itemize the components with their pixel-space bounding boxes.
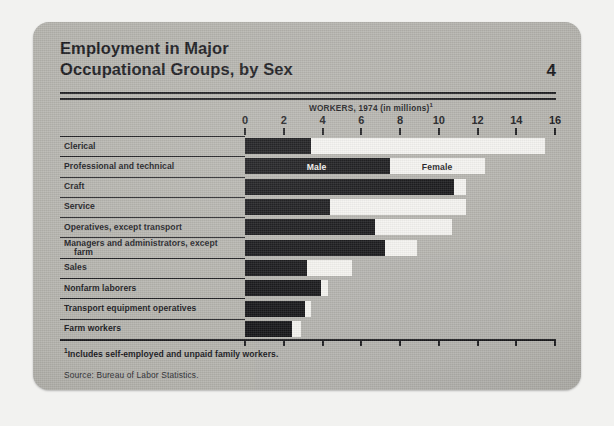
x-tick-label-14: 14	[510, 114, 522, 126]
category-label-line: Nonfarm laborers	[64, 283, 136, 293]
bar-segment-female	[311, 138, 545, 154]
x-axis-tick-marks-bottom	[33, 339, 581, 347]
bar-row: Operatives, except transport	[33, 217, 581, 237]
x-tick-mark-12	[477, 339, 479, 346]
x-tick-label-4: 4	[319, 114, 325, 126]
axis-title: WORKERS, 1974 (in millions)1	[246, 102, 496, 113]
bar-row: Managers and administrators, exceptfarm	[33, 237, 581, 257]
bar-rows: ClericalProfessional and technicalMaleFe…	[33, 136, 581, 339]
x-tick-mark-2	[283, 128, 285, 135]
legend-label-female: Female	[422, 162, 453, 172]
x-tick-mark-16	[554, 339, 556, 346]
bar-segment-male	[245, 240, 385, 256]
bar-row: Professional and technicalMaleFemale	[33, 156, 581, 176]
bar-segment-female	[321, 280, 329, 296]
bar-segment-male	[245, 321, 292, 337]
page-canvas: Employment in Major Occupational Groups,…	[0, 0, 614, 426]
bar-row: Clerical	[33, 136, 581, 156]
source-note: Source: Bureau of Labor Statistics.	[64, 370, 199, 380]
bar-segment-male	[245, 280, 321, 296]
category-label: Farm workers	[64, 323, 121, 333]
row-divider	[60, 217, 245, 218]
footnote: 1Includes self-employed and unpaid famil…	[64, 347, 278, 359]
card-header: Employment in Major Occupational Groups,…	[60, 38, 556, 80]
x-tick-label-2: 2	[281, 114, 287, 126]
category-label-line: Craft	[64, 181, 84, 191]
x-tick-label-6: 6	[358, 114, 364, 126]
category-label: Operatives, except transport	[64, 222, 182, 232]
chart-card: Employment in Major Occupational Groups,…	[33, 22, 581, 390]
row-divider	[60, 278, 245, 279]
x-tick-mark-4	[322, 339, 324, 346]
x-tick-mark-14	[515, 128, 517, 135]
page-title: Employment in Major Occupational Groups,…	[60, 38, 460, 80]
x-tick-mark-0	[244, 128, 246, 135]
x-tick-label-16: 16	[549, 114, 561, 126]
x-axis-tick-labels: 0246810121416	[33, 114, 581, 128]
bar-segment-male	[245, 179, 454, 195]
category-label-line: Farm workers	[64, 323, 121, 333]
x-tick-mark-6	[360, 339, 362, 346]
x-tick-mark-14	[515, 339, 517, 346]
x-tick-label-8: 8	[397, 114, 403, 126]
bar-segment-female	[307, 260, 352, 276]
bar-segment-male	[245, 301, 305, 317]
bar-segment-male	[245, 138, 311, 154]
x-tick-mark-8	[399, 128, 401, 135]
category-label: Professional and technical	[64, 161, 174, 171]
row-divider	[60, 156, 245, 157]
category-label: Managers and administrators, exceptfarm	[64, 239, 244, 257]
category-label: Sales	[64, 262, 87, 272]
category-label-line: Sales	[64, 262, 87, 272]
bar-segment-female	[385, 240, 418, 256]
bar-row: Service	[33, 197, 581, 217]
category-label-line: Professional and technical	[64, 161, 174, 171]
category-label: Craft	[64, 181, 84, 191]
x-tick-mark-0	[244, 339, 246, 346]
x-tick-mark-4	[322, 128, 324, 135]
bar-row: Farm workers	[33, 319, 581, 339]
category-label-line: Service	[64, 201, 95, 211]
bar-segment-female	[375, 219, 453, 235]
bar-segment-female	[292, 321, 302, 337]
category-label: Service	[64, 201, 95, 211]
row-divider	[60, 177, 245, 178]
category-label-line: farm	[64, 248, 244, 257]
bar-row: Nonfarm laborers	[33, 278, 581, 298]
bar-segment-male	[245, 219, 375, 235]
bar-row: Sales	[33, 258, 581, 278]
title-line-1: Employment in Major	[60, 38, 460, 59]
row-divider	[60, 197, 245, 198]
x-tick-mark-10	[438, 339, 440, 346]
x-tick-mark-2	[283, 339, 285, 346]
x-tick-mark-16	[554, 128, 556, 135]
x-tick-mark-6	[360, 128, 362, 135]
x-tick-mark-10	[438, 128, 440, 135]
bar-segment-female	[454, 179, 466, 195]
bar-row: Transport equipment operatives	[33, 298, 581, 318]
row-divider	[60, 319, 245, 320]
bar-segment-female	[330, 199, 466, 215]
header-divider	[60, 92, 556, 100]
row-divider	[60, 298, 245, 299]
category-label: Clerical	[64, 141, 95, 151]
x-tick-mark-12	[477, 128, 479, 135]
category-label-line: Transport equipment operatives	[64, 303, 196, 313]
x-tick-label-12: 12	[471, 114, 483, 126]
x-tick-label-10: 10	[433, 114, 445, 126]
category-label-line: Operatives, except transport	[64, 222, 182, 232]
category-label-line: Clerical	[64, 141, 95, 151]
bar-segment-male	[245, 199, 330, 215]
page-number: 4	[547, 61, 556, 81]
x-tick-label-0: 0	[242, 114, 248, 126]
category-label: Transport equipment operatives	[64, 303, 196, 313]
legend-label-male: Male	[307, 162, 327, 172]
axis-title-footnote-marker: 1	[429, 102, 433, 108]
axis-title-text: WORKERS, 1974 (in millions)	[309, 104, 429, 113]
footnote-text: Includes self-employed and unpaid family…	[68, 349, 279, 359]
x-axis-tick-marks-top	[33, 128, 581, 136]
title-line-2: Occupational Groups, by Sex	[60, 59, 460, 80]
row-divider	[60, 258, 245, 259]
category-label: Nonfarm laborers	[64, 283, 136, 293]
row-divider	[60, 136, 245, 137]
